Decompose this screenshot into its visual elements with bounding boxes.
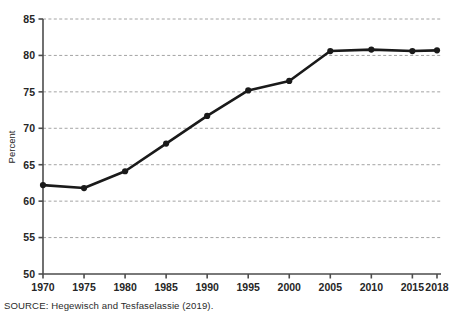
data-point-markers-group: [40, 47, 440, 192]
gridlines-group: [43, 19, 441, 238]
data-line: [43, 50, 437, 188]
x-axis-tick-label: 1990: [195, 281, 219, 293]
source-note: SOURCE: Hegewisch and Tesfaselassie (201…: [4, 300, 213, 311]
y-axis-tick-label: 80: [23, 49, 35, 61]
y-axis-tick-label: 85: [23, 13, 35, 25]
data-point: [409, 48, 415, 54]
x-axis-tick-label: 2015: [401, 281, 425, 293]
x-axis-tick-label: 1970: [31, 281, 55, 293]
y-axis-tick-label: 60: [23, 195, 35, 207]
x-axis-tick-label: 2010: [360, 281, 384, 293]
data-point: [327, 48, 333, 54]
line-chart: Percent 5055606570758085 197019751980198…: [0, 0, 456, 300]
x-axis-tick-label: 1995: [237, 281, 261, 293]
y-axis-label-text: Percent: [6, 130, 17, 163]
y-axis-tick-label: 55: [23, 231, 35, 243]
x-axis-tick-label: 2005: [319, 281, 343, 293]
x-axis-tick-labels-group: 1970197519801985199019952000200520102015…: [31, 281, 449, 293]
data-point: [122, 168, 128, 174]
data-point: [163, 140, 169, 146]
data-point: [81, 185, 87, 191]
x-axis-tick-label: 1975: [72, 281, 96, 293]
y-axis-tick-label: 70: [23, 122, 35, 134]
data-point: [368, 47, 374, 53]
y-axis-tick-label: 75: [23, 86, 35, 98]
y-axis-tick-label: 65: [23, 159, 35, 171]
data-point: [434, 47, 440, 53]
chart-figure: Percent 5055606570758085 197019751980198…: [0, 0, 456, 319]
data-point: [286, 78, 292, 84]
y-axis-tick-label: 50: [23, 268, 35, 280]
y-axis-label: Percent: [6, 130, 17, 163]
data-point: [245, 87, 251, 93]
x-axis-tick-label: 1980: [113, 281, 137, 293]
data-point: [40, 182, 46, 188]
data-point: [204, 113, 210, 119]
x-axis-tick-label: 2018: [425, 281, 449, 293]
x-axis-tick-label: 2000: [278, 281, 302, 293]
x-axis-tick-label: 1985: [154, 281, 178, 293]
y-axis-tick-labels-group: 5055606570758085: [23, 13, 35, 280]
